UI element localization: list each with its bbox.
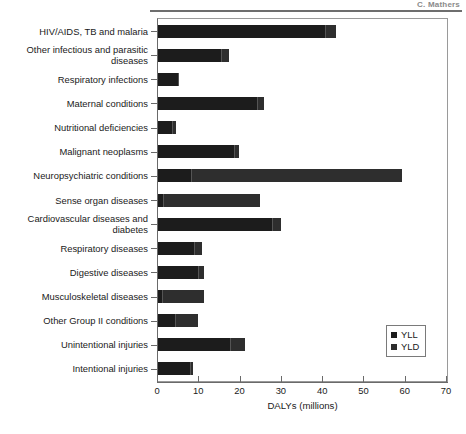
y-axis-tick [151, 321, 157, 322]
x-axis-tick [322, 376, 323, 382]
y-axis-tick [151, 224, 157, 225]
x-axis-tick [363, 376, 364, 382]
legend-label-yll: YLL [401, 329, 418, 341]
bar-segment-yld [257, 97, 264, 110]
y-axis-labels: HIV/AIDS, TB and malariaOther infectious… [0, 19, 148, 381]
bar-segment-yld [172, 121, 176, 134]
x-axis-tick-label: 40 [317, 385, 327, 396]
stacked-bar [158, 73, 179, 86]
bar-row [158, 67, 179, 91]
bar-row [158, 91, 264, 115]
x-axis-tick-label: 10 [193, 385, 203, 396]
y-axis-tick [151, 345, 157, 346]
stacked-bar [158, 145, 239, 158]
y-axis-label: Unintentional injuries [0, 339, 148, 350]
y-axis-tick [151, 31, 157, 32]
x-axis-tick-label: 30 [276, 385, 286, 396]
bar-row [158, 309, 198, 333]
bar-segment-yll [158, 73, 178, 86]
bar-segment-yll [158, 25, 325, 38]
stacked-bar [158, 314, 198, 327]
y-axis-tick [151, 272, 157, 273]
x-axis-tick [446, 376, 447, 382]
bar-segment-yll [158, 314, 175, 327]
x-axis-tick [405, 376, 406, 382]
bar-segment-yld [194, 242, 202, 255]
legend-swatch-yll [391, 332, 397, 338]
y-axis-tick [151, 248, 157, 249]
bar-segment-yll [158, 97, 257, 110]
x-axis-tick [281, 376, 282, 382]
bar-segment-yll [158, 362, 190, 375]
stacked-bar [158, 362, 193, 375]
bar-row [158, 188, 260, 212]
chart-legend: YLL YLD [386, 325, 426, 357]
y-axis-ticks [151, 19, 158, 381]
y-axis-label: Other infectious and parasitic diseases [0, 44, 148, 66]
bar-segment-yll [158, 242, 194, 255]
x-axis-line [157, 382, 448, 383]
bar-segment-yld [191, 169, 402, 182]
x-axis-tick-label: 50 [358, 385, 368, 396]
bar-row [158, 19, 336, 43]
x-axis-title: DALYs (millions) [157, 400, 448, 411]
bar-segment-yld [272, 218, 281, 231]
bar-row [158, 140, 239, 164]
bar-row [158, 236, 202, 260]
x-axis-tick-label: 60 [399, 385, 409, 396]
bar-row [158, 285, 204, 309]
stacked-bar [158, 338, 245, 351]
bar-row [158, 212, 281, 236]
bar-segment-yll [158, 49, 221, 62]
x-axis-tick-label: 0 [154, 385, 159, 396]
y-axis-tick [151, 200, 157, 201]
y-axis-label: Malignant neoplasms [0, 146, 148, 157]
bar-segment-yld [190, 362, 193, 375]
y-axis-label: Intentional injuries [0, 363, 148, 374]
y-axis-label: Respiratory infections [0, 74, 148, 85]
x-axis-tick-label: 70 [441, 385, 451, 396]
bar-segment-yld [221, 49, 229, 62]
bar-row [158, 43, 229, 67]
legend-swatch-yld [391, 344, 397, 350]
stacked-bar [158, 290, 204, 303]
y-axis-label: Other Group II conditions [0, 315, 148, 326]
legend-item-yld: YLD [391, 341, 419, 353]
legend-label-yld: YLD [401, 341, 419, 353]
y-axis-tick [151, 369, 157, 370]
y-axis-label: Neuropsychiatric conditions [0, 170, 148, 181]
x-axis-tick-labels: 010203040506070 [0, 385, 466, 399]
x-axis-tick [198, 376, 199, 382]
y-axis-label: Respiratory diseases [0, 243, 148, 254]
y-axis-label: Sense organ diseases [0, 195, 148, 206]
x-axis-tick-label: 20 [234, 385, 244, 396]
stacked-bar [158, 194, 260, 207]
stacked-bar [158, 97, 264, 110]
stacked-bar [158, 169, 402, 182]
stacked-bar [158, 242, 202, 255]
bar-segment-yll [158, 169, 191, 182]
y-axis-label: Maternal conditions [0, 98, 148, 109]
bar-row [158, 333, 245, 357]
y-axis-tick [151, 297, 157, 298]
legend-item-yll: YLL [391, 329, 419, 341]
stacked-bar [158, 218, 281, 231]
stacked-bar [158, 121, 176, 134]
x-axis-tick [240, 376, 241, 382]
bar-segment-yll [158, 145, 234, 158]
bar-segment-yll [158, 121, 172, 134]
y-axis-label: Musculoskeletal diseases [0, 291, 148, 302]
bar-segment-yll [158, 338, 230, 351]
bar-segment-yld [163, 194, 260, 207]
y-axis-tick [151, 103, 157, 104]
bar-row [158, 260, 204, 284]
bar-segment-yld [178, 73, 180, 86]
bar-segment-yll [158, 266, 198, 279]
bar-row [158, 164, 402, 188]
bar-segment-yld [325, 25, 335, 38]
bar-row [158, 116, 176, 140]
bar-segment-yld [230, 338, 244, 351]
y-axis-label: HIV/AIDS, TB and malaria [0, 26, 148, 37]
y-axis-tick [151, 55, 157, 56]
bar-segment-yld [175, 314, 198, 327]
